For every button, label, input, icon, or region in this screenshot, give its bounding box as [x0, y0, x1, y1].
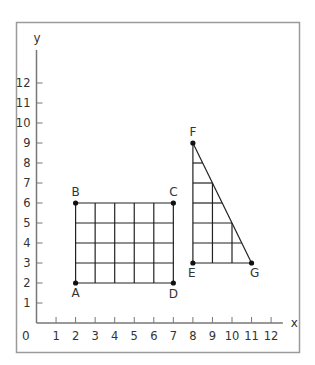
- y-tick-label: 8: [23, 156, 30, 170]
- origin-label: 0: [22, 329, 30, 343]
- figure-frame: [17, 23, 300, 353]
- y-tick-label: 6: [23, 196, 30, 210]
- x-tick-label: 8: [189, 329, 196, 343]
- vertex-g: [249, 260, 254, 265]
- vertex-label-f: F: [189, 125, 196, 139]
- vertex-label-c: C: [169, 185, 177, 199]
- vertex-d: [171, 280, 176, 285]
- x-tick-label: 5: [131, 329, 138, 343]
- vertex-label-g: G: [250, 266, 259, 280]
- x-tick-label: 4: [111, 329, 118, 343]
- x-tick-label: 6: [150, 329, 157, 343]
- y-tick-label: 7: [23, 176, 30, 190]
- x-tick-label: 3: [91, 329, 98, 343]
- y-tick-label: 5: [23, 216, 30, 230]
- x-tick-label: 7: [170, 329, 177, 343]
- x-tick-label: 11: [244, 329, 259, 343]
- vertex-label-d: D: [169, 287, 178, 301]
- y-tick-label: 11: [16, 96, 31, 110]
- x-tick-label: 9: [209, 329, 216, 343]
- x-tick-label: 10: [225, 329, 240, 343]
- x-tick-label: 12: [264, 329, 279, 343]
- coordinate-plane-figure: xy0123456789101112123456789101112 ABCDEF…: [0, 0, 315, 365]
- y-tick-label: 2: [23, 276, 30, 290]
- x-axis-label: x: [291, 316, 298, 330]
- vertex-f: [190, 140, 195, 145]
- vertex-e: [190, 260, 195, 265]
- vertex-label-b: B: [71, 185, 79, 199]
- x-tick-label: 2: [72, 329, 79, 343]
- y-tick-label: 12: [16, 76, 31, 90]
- vertex-c: [171, 200, 176, 205]
- vertex-a: [73, 280, 78, 285]
- y-tick-label: 9: [23, 136, 30, 150]
- vertex-label-a: A: [71, 286, 80, 300]
- y-axis-label: y: [34, 31, 41, 45]
- vertex-b: [73, 200, 78, 205]
- y-tick-label: 10: [16, 116, 31, 130]
- x-tick-label: 1: [52, 329, 59, 343]
- vertex-label-e: E: [188, 266, 196, 280]
- y-tick-label: 3: [23, 256, 30, 270]
- y-tick-label: 1: [23, 296, 30, 310]
- y-tick-label: 4: [23, 236, 30, 250]
